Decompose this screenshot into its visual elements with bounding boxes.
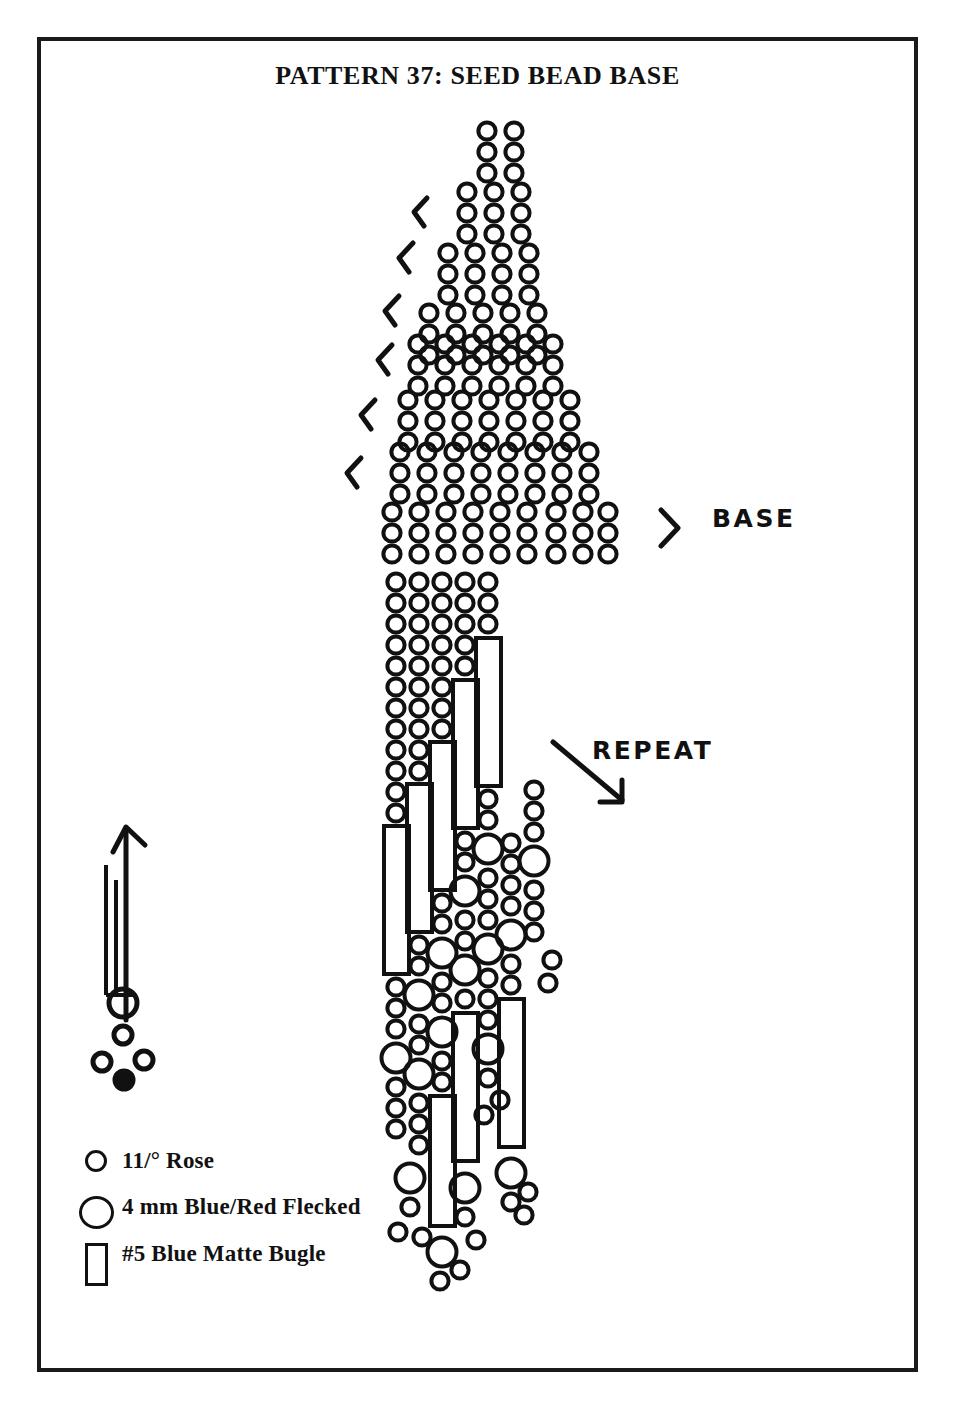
legend-item-seed-bead: 11/° Rose (70, 1148, 380, 1182)
large-circle-icon (79, 1196, 114, 1229)
legend: 11/° Rose 4 mm Blue/Red Flecked #5 Blue … (70, 1148, 380, 1298)
legend-label-bugle-bead: #5 Blue Matte Bugle (122, 1241, 326, 1267)
base-annotation-label: BASE (712, 504, 796, 533)
legend-label-large-bead: 4 mm Blue/Red Flecked (122, 1194, 361, 1220)
rectangle-icon (85, 1243, 108, 1286)
legend-item-bugle-bead: #5 Blue Matte Bugle (70, 1241, 380, 1286)
repeat-annotation-label: REPEAT (592, 736, 713, 765)
legend-marker-small-circle (70, 1148, 122, 1172)
legend-marker-large-circle (70, 1194, 122, 1229)
legend-marker-rectangle (70, 1241, 122, 1286)
page-title: PATTERN 37: SEED BEAD BASE (0, 61, 955, 91)
legend-label-seed-bead: 11/° Rose (122, 1148, 214, 1174)
pattern-page: PATTERN 37: SEED BEAD BASE (0, 0, 955, 1402)
legend-item-large-bead: 4 mm Blue/Red Flecked (70, 1194, 380, 1229)
small-circle-icon (85, 1150, 107, 1172)
